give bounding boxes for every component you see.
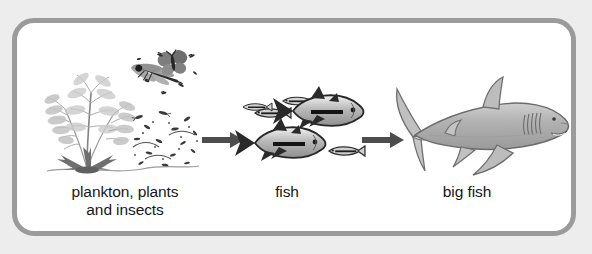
small-fish-icon — [329, 146, 365, 156]
stage-label-big-fish: big fish — [377, 183, 557, 201]
school-of-fish-illustration — [235, 86, 365, 161]
stage-label-producers: plankton, plants and insects — [35, 183, 215, 219]
stage-label-fish: fish — [222, 183, 352, 201]
figure-canvas: plankton, plants and insects fish big fi… — [0, 0, 592, 254]
arrow-fish-to-bigfish — [362, 132, 404, 148]
aquatic-plant-icon — [43, 71, 137, 174]
plant-insects-plankton-illustration — [43, 46, 199, 173]
shark-illustration — [397, 77, 569, 175]
tuna-fish-icon — [273, 86, 364, 129]
diagram-panel: plankton, plants and insects fish big fi… — [12, 18, 576, 236]
plankton-cluster-icon — [132, 110, 198, 167]
